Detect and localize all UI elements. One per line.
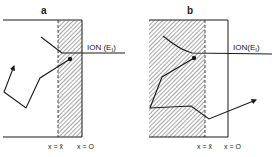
panel-a: a ION (EI) x = x̂ x = O	[3, 5, 125, 150]
panel-b-xcheck-label: x = x̌	[197, 143, 212, 150]
panel-a-hatched-region	[58, 20, 82, 137]
panel-b-ion-label: ION(EI)	[233, 43, 260, 53]
panel-b-label: b	[187, 5, 193, 16]
panel-b-x0-label: x = O	[224, 143, 241, 150]
panel-a-x0-label: x = O	[77, 143, 94, 150]
panel-a-xhat-label: x = x̂	[48, 143, 63, 150]
panel-b-hatched-region	[149, 20, 205, 137]
panel-a-label: a	[41, 5, 47, 16]
ion-trajectory-diagram: a ION (EI) x = x̂ x = O b ION(EI) x = x̌…	[0, 0, 272, 157]
panel-b: b ION(EI) x = x̌ x = O	[149, 5, 272, 150]
panel-a-ion-label: ION (EI)	[87, 43, 116, 53]
